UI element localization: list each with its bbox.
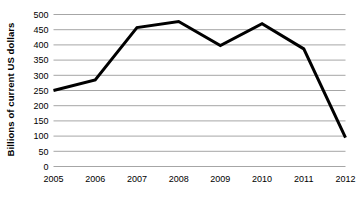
x-tick-labels-group: 20052006200720082009201020112012: [43, 174, 355, 184]
y-tick-label: 400: [33, 40, 48, 50]
y-tick-label: 300: [33, 71, 48, 81]
y-tick-label: 450: [33, 25, 48, 35]
x-tick-label: 2008: [169, 174, 189, 184]
y-tick-label: 250: [33, 86, 48, 96]
x-tick-label: 2009: [210, 174, 230, 184]
y-tick-label: 0: [43, 162, 48, 172]
y-tick-label: 150: [33, 116, 48, 126]
y-tick-label: 500: [33, 10, 48, 20]
line-chart-figure: Billions of current US dollars 050100150…: [0, 0, 357, 198]
gridlines-group: [54, 15, 346, 167]
y-tick-label: 350: [33, 55, 48, 65]
x-tick-label: 2010: [252, 174, 272, 184]
y-tick-label: 50: [38, 147, 48, 157]
x-tick-label: 2005: [43, 174, 63, 184]
data-series-group: [54, 21, 346, 137]
y-tick-label: 100: [33, 131, 48, 141]
chart-plot-area: 050100150200250300350400450500 200520062…: [0, 0, 357, 198]
x-tick-label: 2011: [294, 174, 313, 184]
y-tick-label: 200: [33, 101, 48, 111]
x-tick-label: 2007: [127, 174, 147, 184]
y-tick-labels-group: 050100150200250300350400450500: [33, 10, 48, 172]
x-tick-label: 2012: [335, 174, 355, 184]
x-tick-label: 2006: [85, 174, 105, 184]
data-line: [54, 21, 346, 137]
